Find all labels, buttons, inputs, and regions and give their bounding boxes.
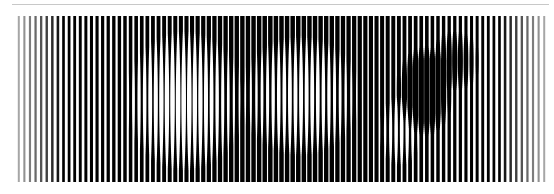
stripe-artwork [0,0,554,194]
